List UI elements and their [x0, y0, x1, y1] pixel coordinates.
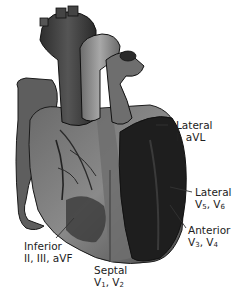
- label-title: Septal: [94, 264, 127, 276]
- inferior-region: [66, 196, 106, 242]
- label-title: Anterior: [188, 224, 230, 236]
- label-anterior-v3-v4: Anterior V3, V4: [188, 224, 230, 251]
- label-title: Inferior: [24, 240, 73, 252]
- label-lateral-i-avl: Lateral I, aVL: [176, 119, 213, 143]
- label-septal: Septal V1, V2: [94, 264, 127, 289]
- label-leads: V1, V2: [94, 276, 127, 289]
- label-title: Lateral: [176, 119, 213, 131]
- label-leads: I, aVL: [176, 131, 213, 143]
- label-title: Lateral: [195, 186, 232, 198]
- label-lateral-v5-v6: Lateral V5, V6: [195, 186, 232, 213]
- label-leads: V3, V4: [188, 236, 230, 251]
- label-leads: II, III, aVF: [24, 252, 73, 264]
- label-leads: V5, V6: [195, 198, 232, 213]
- label-inferior: Inferior II, III, aVF: [24, 240, 73, 264]
